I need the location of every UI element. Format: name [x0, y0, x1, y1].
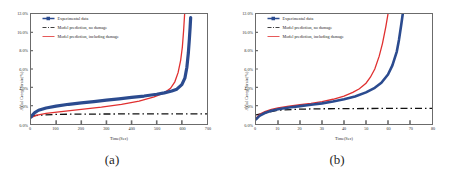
- panel-a-x-axis-label: Time(Sec): [30, 136, 208, 141]
- x-tick: 30: [320, 126, 324, 131]
- x-tick: 200: [78, 126, 84, 131]
- x-tick: 100: [52, 126, 58, 131]
- line-red-icon: [267, 33, 280, 40]
- legend-label: Model prediction, including damage: [58, 34, 119, 39]
- line-marker-blue-icon: [42, 15, 55, 22]
- creep-strain-figure: 0.0% 2.0% 4.0% 6.0% 8.0% 10.0% 12.0% Axi…: [0, 0, 449, 182]
- legend-item-no-damage: Model prediction, no damage: [42, 23, 162, 32]
- panel-a-caption: (a): [0, 152, 224, 168]
- y-tick: 10.0%: [242, 29, 253, 34]
- x-tick: 300: [103, 126, 109, 131]
- legend-item-no-damage: Model prediction, no damage: [267, 23, 387, 32]
- y-tick: 12.0%: [242, 11, 253, 16]
- panel-a-tick-marks: [31, 32, 182, 124]
- panel-b-y-axis-label: Axial Creep Strain(%): [244, 72, 249, 111]
- x-tick: 70: [409, 126, 413, 131]
- legend-item-experimental: Experimental data: [267, 14, 387, 23]
- panel-a-y-axis-label: Axial Creep Strain(%): [19, 72, 24, 111]
- legend-label: Model prediction, no damage: [58, 25, 108, 30]
- x-tick: 0: [254, 126, 256, 131]
- legend-label: Model prediction, including damage: [283, 34, 344, 39]
- y-tick: 12.0%: [17, 11, 28, 16]
- legend-label: Model prediction, no damage: [283, 25, 333, 30]
- y-tick: 8.0%: [244, 48, 253, 53]
- panel-a-x-axis-ticks: 0 100 200 300 400 500 600 700: [30, 126, 208, 136]
- legend-label: Experimental data: [283, 16, 314, 21]
- x-tick: 400: [129, 126, 135, 131]
- legend-item-with-damage: Model prediction, including damage: [42, 32, 162, 41]
- legend-item-with-damage: Model prediction, including damage: [267, 32, 387, 41]
- dashed-line-black-icon: [42, 24, 55, 31]
- panel-b-x-axis-ticks: 0 10 20 30 40 50 60 70 80: [255, 126, 433, 136]
- x-tick: 0: [29, 126, 31, 131]
- x-tick: 600: [179, 126, 185, 131]
- x-tick: 700: [205, 126, 211, 131]
- line-red-icon: [42, 33, 55, 40]
- y-tick: 8.0%: [19, 48, 28, 53]
- y-tick: 0.0%: [244, 123, 253, 128]
- panel-a-series-no-damage: [31, 114, 207, 116]
- panel-b: 0.0% 2.0% 4.0% 6.0% 8.0% 10.0% 12.0% Axi…: [225, 0, 449, 182]
- panel-b-legend: Experimental data Model prediction, no d…: [267, 14, 387, 41]
- line-marker-blue-icon: [267, 15, 280, 22]
- legend-item-experimental: Experimental data: [42, 14, 162, 23]
- x-tick: 60: [386, 126, 390, 131]
- panel-a: 0.0% 2.0% 4.0% 6.0% 8.0% 10.0% 12.0% Axi…: [0, 0, 224, 182]
- y-tick: 0.0%: [19, 123, 28, 128]
- x-tick: 80: [431, 126, 435, 131]
- dashed-line-black-icon: [267, 24, 280, 31]
- panel-a-legend: Experimental data Model prediction, no d…: [42, 14, 162, 41]
- panel-b-x-axis-label: Time(Sec): [255, 136, 433, 141]
- x-tick: 500: [154, 126, 160, 131]
- x-tick: 50: [364, 126, 368, 131]
- y-tick: 10.0%: [17, 29, 28, 34]
- panel-b-caption: (b): [225, 152, 449, 168]
- x-tick: 20: [297, 126, 301, 131]
- legend-label: Experimental data: [58, 16, 89, 21]
- x-tick: 10: [275, 126, 279, 131]
- x-tick: 40: [342, 126, 346, 131]
